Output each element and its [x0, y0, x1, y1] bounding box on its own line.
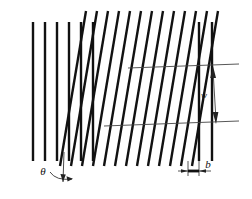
angle-arrowheads: [60, 174, 73, 182]
slanted-fin: [82, 11, 108, 166]
pitch-label: w: [201, 90, 207, 100]
slanted-fin: [159, 11, 185, 166]
thickness-fill-block: [188, 170, 199, 173]
figure-canvas: w b θ: [0, 0, 252, 199]
thickness-arrowhead-left: [181, 169, 188, 173]
angle-arrowhead-down: [60, 174, 65, 182]
slanted-fin: [181, 11, 207, 166]
slanted-fin: [137, 11, 163, 166]
slanted-fin: [170, 11, 196, 166]
slanted-fin-group: [60, 11, 218, 166]
slanted-fin: [148, 11, 174, 166]
angle-label: θ: [40, 165, 46, 177]
slanted-fin: [126, 11, 152, 166]
fin-geometry-figure: w b θ: [0, 0, 252, 199]
slanted-fin: [93, 11, 119, 166]
slanted-fin: [104, 11, 130, 166]
thickness-label: b: [205, 158, 211, 170]
pitch-extension-line-upper: [128, 64, 239, 68]
angle-arrowhead-arc-end: [67, 176, 74, 181]
pitch-extension-line-lower: [104, 121, 239, 126]
slanted-fin: [115, 11, 141, 166]
